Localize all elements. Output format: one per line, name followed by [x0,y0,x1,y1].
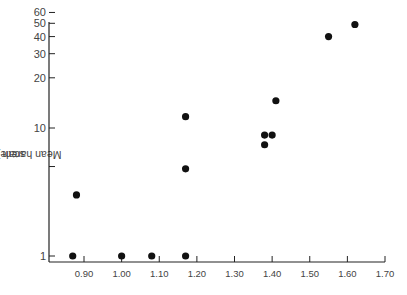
data-point [182,113,189,120]
y-tick-label: 20 [34,72,46,84]
y-axis-ticks: 1102030405060 [34,6,55,262]
x-tick-label: 1.10 [150,268,169,279]
x-tick-label: 0.90 [75,268,94,279]
data-point [272,97,279,104]
axes [49,22,385,262]
y-tick-label: 10 [34,122,46,134]
data-point [351,21,358,28]
x-axis-ticks: 0.901.001.101.201.301.401.501.601.70 [75,256,395,279]
data-points [69,21,358,260]
data-point [325,33,332,40]
x-tick-label: 1.30 [225,268,244,279]
scatter-chart: 1102030405060 0.901.001.101.201.301.401.… [0,0,407,295]
x-tick-label: 1.50 [301,268,320,279]
y-tick-label: 1 [40,250,46,262]
y-tick-label: 30 [34,48,46,60]
data-point [118,252,125,259]
data-point [73,191,80,198]
data-point [269,132,276,139]
y-tick-label: 50 [34,17,46,29]
x-tick-label: 1.70 [376,268,395,279]
x-tick-label: 1.00 [112,268,131,279]
y-tick-label: 60 [34,6,46,18]
x-tick-label: 1.60 [338,268,357,279]
x-tick-label: 1.20 [188,268,207,279]
data-point [261,132,268,139]
y-tick-label: 40 [34,31,46,43]
data-point [182,165,189,172]
data-point [69,252,76,259]
data-point [148,252,155,259]
data-point [261,141,268,148]
data-point [182,252,189,259]
x-tick-label: 1.40 [263,268,282,279]
